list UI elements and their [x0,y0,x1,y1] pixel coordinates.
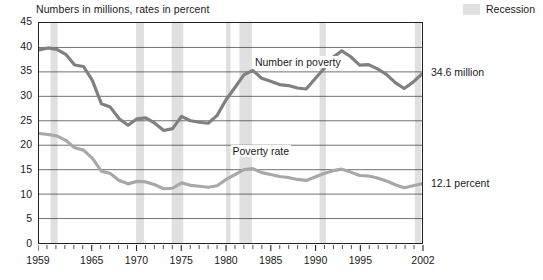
legend: Recession [463,3,535,15]
chart-subtitle: Numbers in millions, rates in percent [36,3,210,15]
series-label-poverty-rate: Poverty rate [231,145,292,157]
y-tick-label: 15 [0,163,32,175]
plot-svg [39,23,422,243]
y-tick-label: 45 [0,15,32,27]
x-tick-label: 1985 [259,254,282,266]
recession-swatch-icon [463,4,480,15]
series-label-number-in-poverty: Number in poverty [253,56,343,68]
end-label-number-in-poverty: 34.6 million [431,66,484,78]
x-tick-label: 1970 [125,254,148,266]
recession-band [136,23,144,243]
y-tick-label: 0 [0,237,32,249]
y-tick-label: 10 [0,188,32,200]
x-axis-minor-ticks [38,245,425,253]
y-tick-label: 35 [0,64,32,76]
x-tick-label: 1980 [214,254,237,266]
x-tick-label: 1965 [80,254,103,266]
y-tick-label: 25 [0,114,32,126]
x-tick-label: 1995 [349,254,372,266]
y-tick-label: 40 [0,40,32,52]
y-tick-label: 5 [0,212,32,224]
poverty-chart-figure: Numbers in millions, rates in percent Re… [0,0,543,280]
recession-band [415,23,421,243]
y-tick-label: 30 [0,89,32,101]
recession-band [226,23,230,243]
y-tick-label: 20 [0,138,32,150]
plot-area [38,22,423,244]
x-tick-label: 2002 [411,254,434,266]
x-tick-label: 1975 [170,254,193,266]
recession-band [239,23,251,243]
recession-band [172,23,184,243]
legend-label-recession: Recession [486,3,535,15]
recession-band [51,23,58,243]
x-tick-label: 1990 [304,254,327,266]
x-tick-label: 1959 [26,254,49,266]
end-label-poverty-rate: 12.1 percent [431,177,489,189]
